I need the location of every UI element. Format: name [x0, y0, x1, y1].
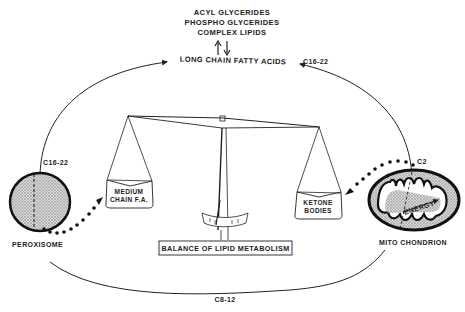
- label-peroxisome: PEROXISOME: [12, 241, 63, 248]
- label-c2: C2: [417, 158, 427, 165]
- label-long-chain-fatty-acids: LONG CHAIN FATTY ACIDS: [180, 55, 287, 67]
- label-bodies: BODIES: [304, 207, 332, 214]
- label-acyl-glycerides: ACYL GLYCERIDES: [194, 8, 270, 17]
- label-phospho-glycerides: PHOSPHO GLYCERIDES: [185, 18, 280, 27]
- label-c8-12: C8-12: [214, 296, 235, 303]
- interconversion-arrows-icon: [215, 41, 230, 55]
- diagram-title: BALANCE OF LIPID METABOLISM: [161, 244, 289, 253]
- balance-scale-icon: [107, 116, 341, 240]
- label-c16-22-left: C16-22: [43, 159, 68, 166]
- metabolic-cycle-lines: [40, 62, 412, 294]
- label-complex-lipids: COMPLEX LIPIDS: [198, 28, 267, 37]
- label-c16-22-right: C16-22: [303, 58, 328, 65]
- lipid-balance-diagram: ACYL GLYCERIDES PHOSPHO GLYCERIDES COMPL…: [0, 0, 465, 312]
- label-ketone: KETONE: [303, 199, 333, 206]
- label-chain-fa: CHAIN F.A.: [110, 196, 148, 203]
- label-mitochondrion: MITO CHONDRION: [379, 239, 447, 246]
- label-medium: MEDIUM: [115, 188, 144, 195]
- mitochondrion-organelle: [369, 170, 459, 230]
- top-lipid-labels: ACYL GLYCERIDES PHOSPHO GLYCERIDES COMPL…: [185, 8, 280, 37]
- peroxisome-organelle: [10, 173, 70, 231]
